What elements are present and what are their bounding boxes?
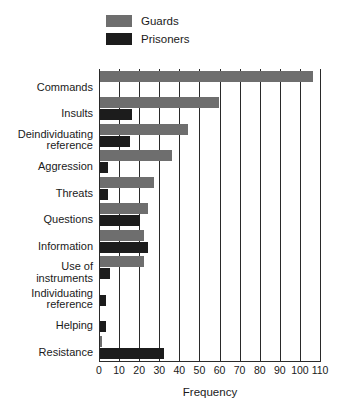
bar-group [100,124,321,148]
bar-guards [100,124,188,135]
plot-area [99,69,320,361]
x-tick-label: 40 [174,365,186,376]
bar-group [100,256,321,280]
y-axis-category-label: Resistance [0,347,93,359]
x-tick-label: 20 [133,365,145,376]
y-axis-category-label: Questions [0,214,93,226]
x-tick-label: 80 [254,365,266,376]
bar-group [100,203,321,227]
chart-legend: Guards Prisoners [106,14,190,46]
bar-prisoners [100,189,108,200]
bar-group [100,336,321,360]
bar-prisoners [100,242,148,253]
x-axis-line [99,361,321,362]
bar-group [100,230,321,254]
bar-group [100,150,321,174]
legend-swatch-guards [106,15,132,27]
bar-guards [100,230,144,241]
y-axis-category-label: Deindividuating reference [0,129,93,152]
bar-chart: Guards Prisoners CommandsInsultsDeindivi… [0,0,349,418]
legend-item-guards: Guards [106,14,190,28]
bar-guards [100,203,148,214]
x-axis-title: Frequency [99,386,321,398]
bar-group [100,309,321,333]
bar-guards [100,336,102,347]
legend-swatch-prisoners [106,33,132,45]
y-axis-category-label: Information [0,241,93,253]
bar-prisoners [100,268,110,279]
y-axis-category-label: Helping [0,320,93,332]
bar-prisoners [100,348,164,359]
x-tick-label: 110 [312,365,329,376]
x-tick-label: 30 [153,365,165,376]
y-axis-category-label: Use of instruments [0,261,93,284]
bar-guards [100,256,144,267]
bar-guards [100,97,219,108]
y-axis-category-label: Individuating reference [0,288,93,311]
bar-guards [100,150,172,161]
bar-prisoners [100,295,106,306]
x-tick-label: 60 [214,365,226,376]
x-tick-label: 50 [194,365,206,376]
legend-item-prisoners: Prisoners [106,32,190,46]
legend-label-guards: Guards [141,15,179,27]
bar-prisoners [100,136,130,147]
x-tick-label: 100 [291,365,309,376]
y-axis-category-label: Commands [0,82,93,94]
legend-label-prisoners: Prisoners [141,33,190,45]
bar-prisoners [100,215,140,226]
bar-prisoners [100,162,108,173]
x-tick-label: 90 [274,365,286,376]
bar-prisoners [100,109,132,120]
x-tick-label: 10 [113,365,125,376]
bar-group [100,71,321,95]
x-tick-label: 70 [234,365,246,376]
bar-group [100,283,321,307]
bar-guards [100,177,154,188]
y-axis-category-label: Insults [0,108,93,120]
y-axis-category-label: Aggression [0,161,93,173]
x-tick-label: 0 [96,365,102,376]
y-axis-category-label: Threats [0,188,93,200]
bar-guards [100,71,313,82]
bar-prisoners [100,321,106,332]
bar-group [100,97,321,121]
bar-group [100,177,321,201]
